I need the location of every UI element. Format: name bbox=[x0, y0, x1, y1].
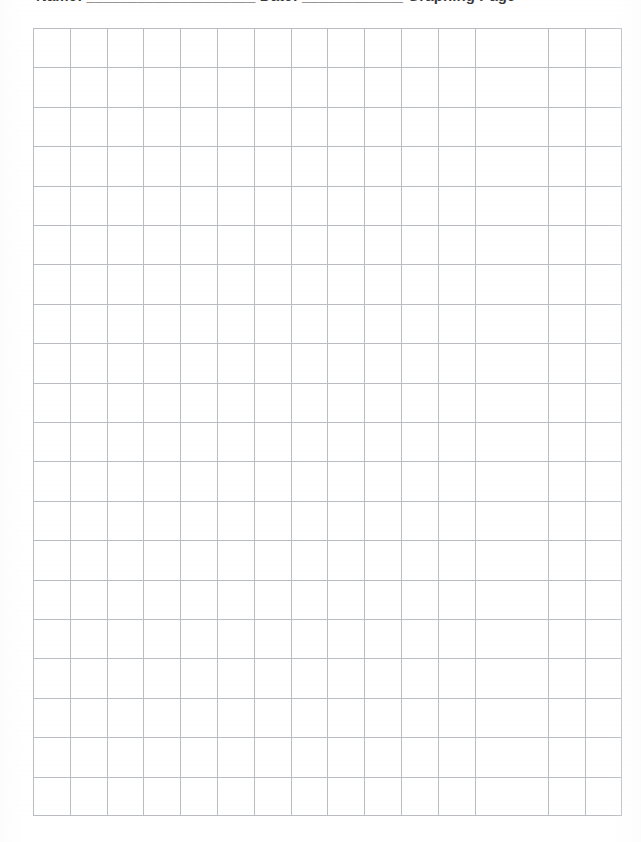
grid-rules bbox=[33, 28, 622, 816]
grid-border-right bbox=[621, 28, 622, 816]
page-header-strip: Name: ____________________ Date: _______… bbox=[0, 0, 641, 9]
grid-border-bottom bbox=[33, 815, 622, 816]
page-title: Name: ____________________ Date: _______… bbox=[36, 0, 616, 4]
graph-paper-grid bbox=[33, 28, 622, 816]
scanned-page: Name: ____________________ Date: _______… bbox=[0, 0, 641, 842]
